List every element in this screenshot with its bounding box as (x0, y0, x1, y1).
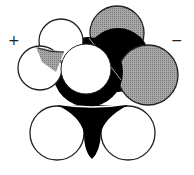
atom-h-center (61, 44, 111, 94)
atom-o-right (118, 45, 178, 105)
molecule-model (0, 0, 194, 175)
